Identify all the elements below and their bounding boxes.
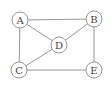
node-b: B bbox=[86, 11, 102, 27]
node-e: E bbox=[86, 62, 102, 78]
node-d: D bbox=[51, 37, 67, 53]
node-label: C bbox=[15, 65, 23, 76]
node-label: B bbox=[90, 14, 97, 25]
node-label: E bbox=[90, 65, 97, 76]
node-a: A bbox=[12, 12, 28, 28]
node-label: A bbox=[15, 15, 24, 26]
node-label: D bbox=[55, 40, 63, 51]
node-c: C bbox=[11, 62, 27, 78]
graph-diagram: ABDCE bbox=[0, 0, 111, 88]
edge-a-b bbox=[20, 19, 94, 20]
nodes: ABDCE bbox=[11, 11, 102, 78]
